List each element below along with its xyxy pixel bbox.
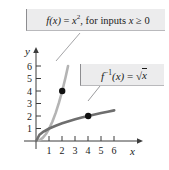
- y-axis-label: y: [24, 45, 30, 57]
- svg-text:1: 1: [27, 123, 32, 134]
- svg-text:5: 5: [99, 145, 104, 156]
- svg-text:6: 6: [27, 61, 32, 72]
- svg-text:1: 1: [47, 145, 52, 156]
- svg-text:4: 4: [27, 86, 32, 97]
- y-axis-arrowhead: [33, 47, 39, 53]
- svg-text:3: 3: [27, 98, 32, 109]
- svg-text:6: 6: [112, 145, 117, 156]
- svg-text:2: 2: [60, 145, 65, 156]
- y-tick-marks: [36, 66, 41, 129]
- svg-text:4: 4: [86, 145, 91, 156]
- leader-line-finv: [88, 86, 100, 101]
- x-tick-marks: [49, 136, 114, 141]
- math-figure: y x 1 2 3 4 5 6 1 2 3 4 5 6 f(x) = x2, f…: [0, 0, 169, 170]
- function-label-text: f(x) = x2, for inputs x ≥ 0: [46, 13, 149, 26]
- svg-text:5: 5: [27, 73, 32, 84]
- inverse-function-label-callout: f−1(x) = √x: [80, 64, 164, 86]
- y-tick-labels: 1 2 3 4 5 6: [27, 61, 32, 135]
- inverse-function-label-text: f−1(x) = √x: [101, 68, 147, 82]
- x-axis-label: x: [129, 145, 135, 157]
- svg-text:3: 3: [73, 145, 78, 156]
- svg-text:2: 2: [27, 111, 32, 122]
- function-label-callout: f(x) = x2, for inputs x ≥ 0: [26, 9, 165, 31]
- point-2-4: [59, 88, 65, 94]
- x-tick-labels: 1 2 3 4 5 6: [47, 145, 117, 156]
- x-axis-arrowhead: [137, 138, 143, 143]
- leader-line-fx: [56, 33, 80, 61]
- point-4-2: [85, 113, 91, 119]
